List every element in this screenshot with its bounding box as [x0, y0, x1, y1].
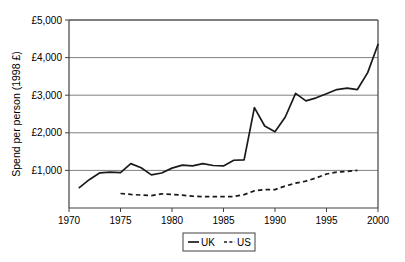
y-axis-title: Spend per person (1998 £): [10, 51, 22, 177]
legend-label-us: US: [237, 237, 251, 248]
x-tick-label-1970: 1970: [58, 215, 81, 226]
y-tick-label-4000: £4,000: [31, 52, 62, 63]
x-tick-label-1995: 1995: [315, 215, 338, 226]
y-tick-label-2000: £2,000: [31, 127, 62, 138]
y-tick-label-1000: £1,000: [31, 165, 62, 176]
x-tick-label-1990: 1990: [264, 215, 287, 226]
legend-label-uk: UK: [201, 237, 215, 248]
x-tick-label-1975: 1975: [109, 215, 132, 226]
y-tick-label-5000: £5,000: [31, 15, 62, 26]
chart-legend[interactable]: UKUS: [183, 233, 255, 251]
x-tick-label-1985: 1985: [212, 215, 235, 226]
x-tick-label-2000: 2000: [367, 215, 390, 226]
chart-container: £1,000£2,000£3,000£4,000£5,000 197019751…: [0, 0, 405, 262]
x-tick-label-1980: 1980: [161, 215, 184, 226]
spend-per-person-line-chart: £1,000£2,000£3,000£4,000£5,000 197019751…: [0, 0, 405, 262]
y-tick-label-3000: £3,000: [31, 90, 62, 101]
